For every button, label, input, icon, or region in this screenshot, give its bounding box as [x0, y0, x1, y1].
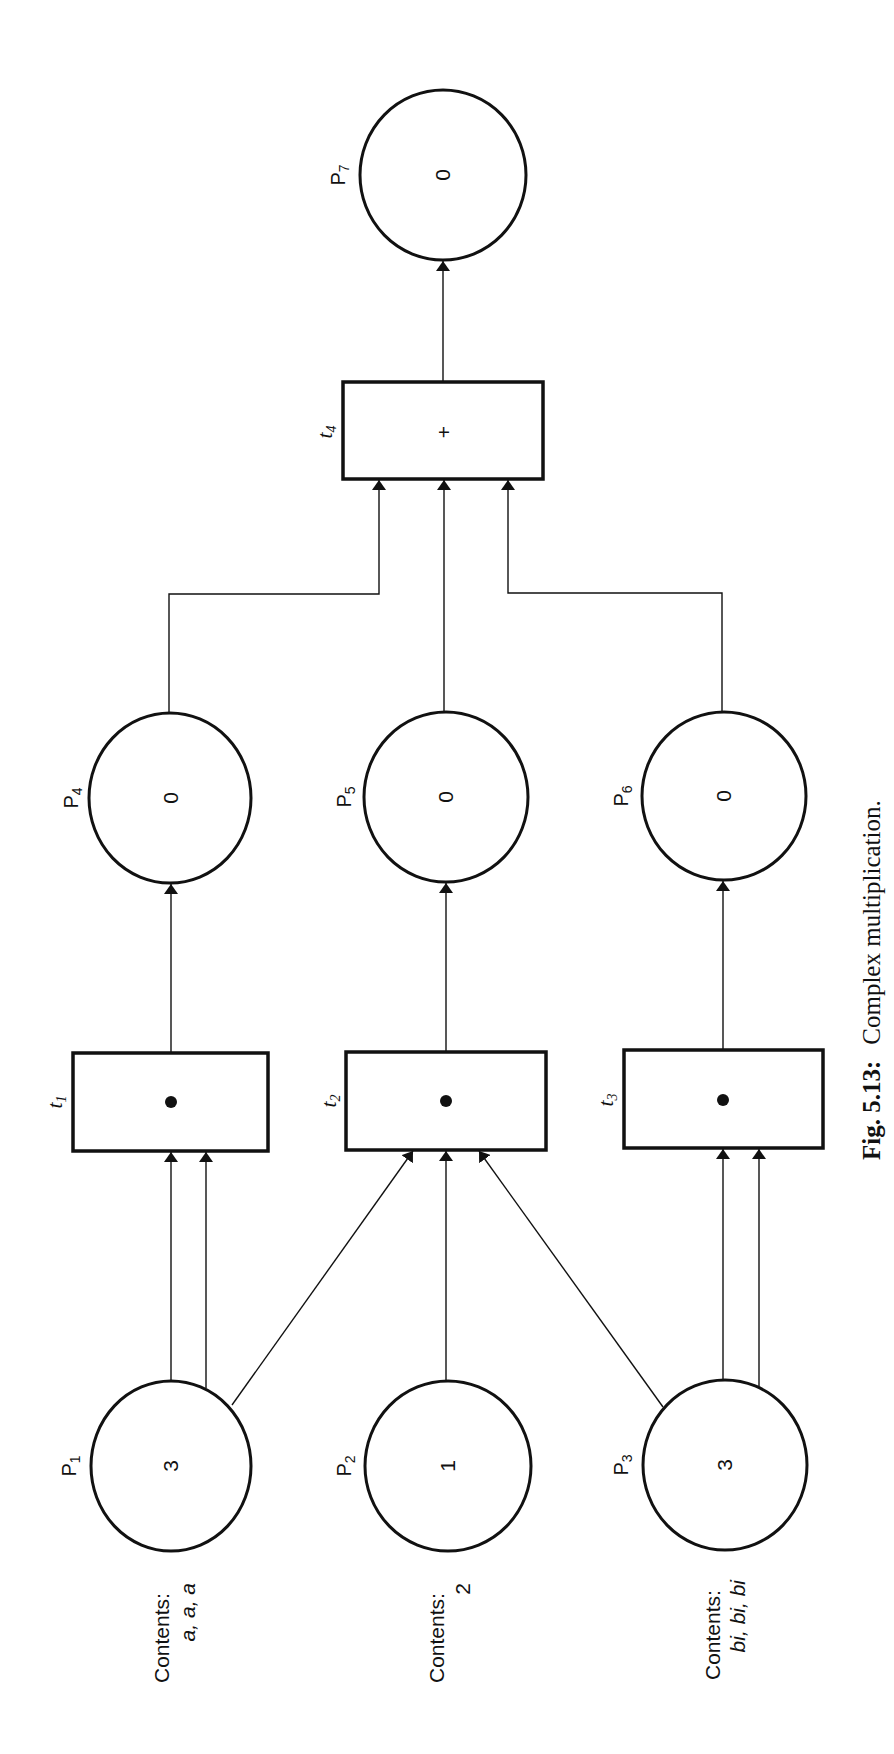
place-p5-label: P5: [333, 786, 358, 807]
place-p2: 1 P2: [333, 1381, 531, 1551]
contents-p3-label: Contents:: [701, 1590, 724, 1680]
place-p6: 0 P6: [610, 712, 806, 880]
arc-p6-t4: [508, 480, 722, 712]
figure-caption: Fig. 5.13:Complex multiplication.: [858, 800, 885, 1160]
place-p1: 3 P1: [58, 1381, 251, 1551]
t1-dot-icon: [165, 1096, 177, 1108]
arc-p1-t2: [232, 1151, 413, 1405]
contents-p2-value: 2: [451, 1583, 474, 1595]
place-p2-label: P2: [333, 1455, 358, 1476]
place-p6-tokens: 0: [712, 790, 735, 802]
transition-t2: t2: [316, 1052, 546, 1150]
place-p4-label: P4: [60, 787, 85, 808]
transition-t4: + t4: [312, 382, 543, 479]
place-p5-tokens: 0: [434, 791, 457, 803]
place-p3: 3 P3: [610, 1380, 807, 1550]
place-p2-tokens: 1: [436, 1460, 459, 1472]
arc-p4-t4: [169, 480, 379, 713]
contents-p3-value: bi, bi, bi: [726, 1579, 749, 1653]
place-p4-tokens: 0: [159, 792, 182, 804]
contents-p1-value: a, a, a: [176, 1583, 199, 1641]
place-p7-tokens: 0: [431, 169, 454, 181]
transition-t4-label: t4: [312, 425, 339, 438]
contents-p2-label: Contents:: [425, 1593, 448, 1683]
contents-p3: Contents: bi, bi, bi: [701, 1579, 749, 1680]
place-p5: 0 P5: [333, 712, 528, 882]
figure-caption-text: Complex multiplication.: [858, 800, 885, 1044]
transition-t3: t3: [593, 1050, 823, 1148]
transition-t1: t1: [42, 1053, 268, 1151]
place-p3-tokens: 3: [713, 1459, 736, 1471]
transition-t1-label: t1: [42, 1095, 69, 1108]
t2-dot-icon: [440, 1095, 452, 1107]
petri-net-diagram: 3 P1 1 P2 3 P3 0 P4 0 P5 0 P6 0 P7 t1: [0, 0, 894, 1754]
arc-p3-t2: [479, 1151, 663, 1407]
t3-dot-icon: [717, 1094, 729, 1106]
place-p6-label: P6: [610, 785, 635, 806]
transition-t2-label: t2: [316, 1094, 343, 1107]
figure-caption-label: Fig. 5.13:: [858, 1061, 885, 1160]
place-p4: 0 P4: [60, 713, 251, 883]
transition-t4-symbol: +: [432, 426, 455, 438]
contents-p1-label: Contents:: [150, 1593, 173, 1683]
place-p1-tokens: 3: [159, 1460, 182, 1472]
place-p7: 0 P7: [327, 90, 526, 260]
contents-p1: Contents: a, a, a: [150, 1583, 199, 1683]
place-p1-label: P1: [58, 1455, 83, 1476]
contents-p2: Contents: 2: [425, 1583, 474, 1683]
place-p7-label: P7: [327, 164, 352, 185]
place-p3-label: P3: [610, 1454, 635, 1475]
transition-t3-label: t3: [593, 1093, 620, 1106]
